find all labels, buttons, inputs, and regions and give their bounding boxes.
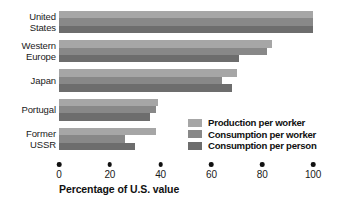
axis-tick-dot <box>108 162 113 167</box>
bar <box>59 18 313 25</box>
bar-stack <box>59 99 158 121</box>
axis-tick-dot <box>209 162 214 167</box>
axis-tick-dot <box>260 162 265 167</box>
legend-item: Consumption per worker <box>188 129 317 141</box>
x-axis-title: Percentage of U.S. value <box>59 183 179 195</box>
legend-label: Consumption per person <box>208 140 317 151</box>
legend-swatch-icon <box>188 130 202 138</box>
bar <box>59 55 239 62</box>
bar <box>59 40 272 47</box>
category-label: Portugal <box>0 104 56 115</box>
bar <box>59 143 135 150</box>
bar-group: Japan <box>0 69 337 91</box>
axis-tick-label: 40 <box>155 169 166 180</box>
bar <box>59 128 156 135</box>
chart-legend: Production per workerConsumption per wor… <box>188 117 317 152</box>
legend-swatch-icon <box>188 119 202 127</box>
bar <box>59 69 237 76</box>
bar-stack <box>59 40 272 62</box>
bar-group: Western Europe <box>0 40 337 62</box>
category-label: United States <box>0 11 56 33</box>
legend-item: Production per worker <box>188 117 317 129</box>
category-label: Former USSR <box>0 128 56 150</box>
bar <box>59 113 150 120</box>
bar <box>59 135 125 142</box>
legend-label: Consumption per worker <box>208 129 316 140</box>
bar-chart: United StatesWestern EuropeJapanPortugal… <box>0 0 337 204</box>
bar-group: United States <box>0 11 337 33</box>
legend-item: Consumption per person <box>188 140 317 152</box>
bar-stack <box>59 69 237 91</box>
bar <box>59 106 156 113</box>
bar <box>59 48 267 55</box>
legend-label: Production per worker <box>208 117 305 128</box>
axis-tick-label: 60 <box>206 169 217 180</box>
axis-tick-dot <box>311 162 316 167</box>
axis-tick-label: 20 <box>104 169 115 180</box>
x-axis: Percentage of U.S. value 020406080100 <box>0 160 337 204</box>
bar <box>59 99 158 106</box>
bar-stack <box>59 11 313 33</box>
bar <box>59 77 222 84</box>
bar <box>59 26 313 33</box>
axis-tick-dot <box>158 162 163 167</box>
axis-tick-label: 100 <box>305 169 321 180</box>
category-label: Western Europe <box>0 40 56 62</box>
legend-swatch-icon <box>188 142 202 150</box>
bar-stack <box>59 128 156 150</box>
category-label: Japan <box>0 75 56 86</box>
bar <box>59 84 232 91</box>
axis-tick-dot <box>57 162 62 167</box>
bar <box>59 11 313 18</box>
axis-tick-label: 0 <box>56 169 61 180</box>
axis-tick-label: 80 <box>257 169 268 180</box>
